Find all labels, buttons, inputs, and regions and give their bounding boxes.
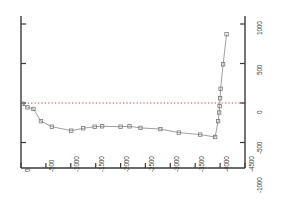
- x-tick-label: -1500: [98, 156, 105, 172]
- y-tick-label: 1000: [256, 21, 263, 35]
- x-tick-label: -4500: [248, 156, 255, 172]
- chart-figure: 0-500-1000-1500-2000-2500-3000-3500-4000…: [0, 0, 282, 206]
- x-tick-label: -3500: [198, 156, 205, 172]
- x-tick-label: -2500: [148, 156, 155, 172]
- y-axis-right-ticks: [240, 24, 245, 143]
- plot-canvas: [0, 0, 282, 206]
- x-tick-label: -500: [48, 160, 55, 172]
- data-line: [22, 34, 226, 137]
- y-tick-label: -500: [256, 141, 263, 153]
- x-tick-label: 0: [24, 169, 31, 172]
- x-tick-label: -3000: [173, 156, 180, 172]
- y-axis-left-ticks: [21, 24, 26, 143]
- x-tick-label: -1000: [73, 156, 80, 172]
- x-tick-label: -4000: [223, 156, 230, 172]
- data-markers: [21, 33, 228, 139]
- y-tick-label: 0: [256, 111, 263, 114]
- axis-frame: [21, 16, 245, 168]
- y-tick-label: 500: [256, 64, 263, 74]
- y-tick-label: -1000: [256, 177, 263, 193]
- x-tick-label: -2000: [123, 156, 130, 172]
